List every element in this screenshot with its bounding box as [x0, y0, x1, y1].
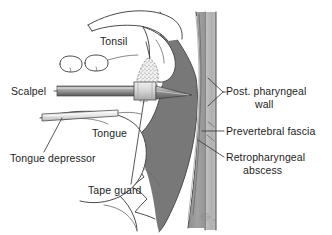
label-retropharyngeal-abscess-line1: Retropharyngeal [226, 151, 305, 163]
vertebral-column [205, 12, 216, 230]
label-post-pharyngeal-wall-line1: Post. pharyngeal [226, 85, 306, 97]
label-scalpel-text: Scalpel [11, 85, 46, 97]
label-tongue-depressor-text: Tongue depressor [10, 152, 96, 164]
label-post-pharyngeal-wall-line2: wall [254, 98, 274, 110]
figure-root: Tonsil Scalpel Tongue Tongue depressor T… [0, 0, 332, 235]
anatomical-illustration: Tonsil Scalpel Tongue Tongue depressor T… [0, 0, 332, 235]
label-prevertebral-fascia-text: Prevertebral fascia [226, 125, 315, 137]
label-tonsil-text: Tonsil [100, 35, 127, 47]
label-retropharyngeal-abscess-line2: abscess [243, 164, 282, 176]
label-tape-guard-text: Tape guard [88, 184, 142, 196]
label-tongue: Tongue [92, 127, 127, 139]
tape-guard-block[interactable] [134, 82, 156, 100]
scalpel-handle[interactable] [57, 86, 136, 96]
label-tongue-text: Tongue [92, 127, 127, 139]
